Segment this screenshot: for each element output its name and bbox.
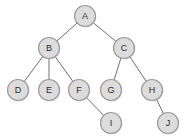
node-label: B [46,43,52,53]
tree-node-c[interactable]: C [114,38,136,60]
tree-node-f[interactable]: F [69,80,91,102]
node-label: C [121,43,128,53]
tree-diagram-canvas: ABCDEFGHIJ [0,0,183,139]
tree-edge-h-j [156,99,163,114]
edge-layer [24,22,164,115]
node-label: A [82,11,88,21]
tree-node-e[interactable]: E [39,80,61,102]
tree-edge-b-f [55,56,73,82]
node-label: F [76,85,82,95]
tree-edge-c-g [114,58,121,81]
tree-node-g[interactable]: G [101,80,123,102]
node-label: J [166,118,171,128]
tree-node-a[interactable]: A [75,6,97,28]
tree-node-h[interactable]: H [142,80,164,102]
tree-diagram: ABCDEFGHIJ [0,0,183,139]
tree-node-b[interactable]: B [39,38,61,60]
tree-node-i[interactable]: I [101,113,123,135]
tree-node-d[interactable]: D [8,80,30,102]
tree-node-j[interactable]: J [158,113,180,135]
tree-edge-b-d [24,56,43,82]
node-label: G [107,85,114,95]
node-label: I [110,118,113,128]
node-label: H [149,85,156,95]
node-label: D [15,85,22,95]
node-label: E [46,85,52,95]
tree-edge-a-c [93,22,117,41]
tree-edge-a-b [56,23,77,42]
tree-edge-f-i [86,97,104,116]
tree-edge-c-h [130,56,147,81]
